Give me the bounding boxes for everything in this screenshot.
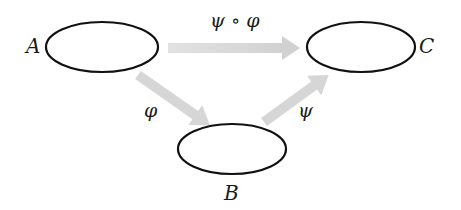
edge-a-c-label: ψ ∘ φ — [210, 11, 260, 30]
node-c-label: C — [419, 36, 434, 56]
arrow-a-to-c — [168, 36, 300, 60]
node-a-label: A — [26, 36, 40, 56]
node-b-label: B — [224, 183, 239, 203]
diagram-canvas — [0, 0, 461, 210]
edge-a-b-label: φ — [144, 101, 157, 120]
node-a-ellipse — [46, 22, 158, 72]
node-c-ellipse — [307, 22, 415, 72]
node-b-ellipse — [178, 124, 286, 174]
arrow-b-to-c — [257, 65, 336, 131]
edge-b-c-label: ψ — [298, 101, 313, 120]
